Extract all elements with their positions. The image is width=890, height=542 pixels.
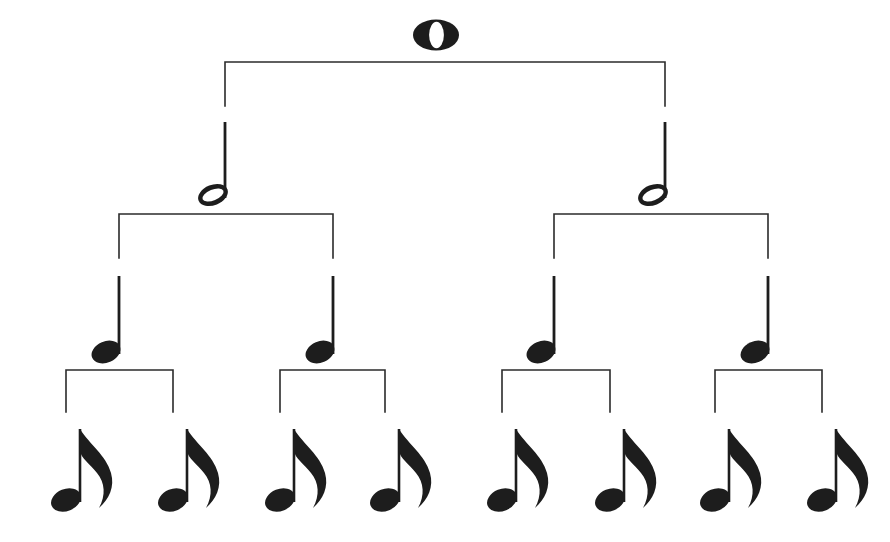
eighth-note-glyph [155,429,220,516]
bracket-quarter4-to-eighths [715,370,822,412]
bracket-whole-to-halves [225,62,665,106]
bracket-path [502,370,610,412]
bracket-path [715,370,822,412]
bracket-path [225,62,665,106]
tree-geometry-layer [48,20,869,517]
eighth-note-glyph [367,429,432,516]
eighth-note-glyph [262,429,327,516]
bracket-quarter2-to-eighths [280,370,385,412]
bracket-quarter3-to-eighths [502,370,610,412]
bracket-path [554,214,768,258]
bracket-half2-to-quarters [554,214,768,258]
bracket-path [119,214,333,258]
bracket-quarter1-to-eighths [66,370,173,412]
tree-canvas [0,0,890,542]
eighth-note-glyph [592,429,657,516]
eighth-note-glyph [804,429,869,516]
eighth-note-glyph [697,429,762,516]
bracket-path [66,370,173,412]
eighth-note-glyph [484,429,549,516]
bracket-path [280,370,385,412]
bracket-half1-to-quarters [119,214,333,258]
eighth-note-glyph [48,429,113,516]
whole-note-glyph [413,20,459,51]
note-value-tree-figure [0,0,890,542]
